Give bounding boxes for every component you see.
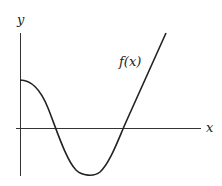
function-plot: y x f(x): [0, 0, 222, 186]
function-curve: [20, 33, 166, 175]
y-axis-label: y: [16, 12, 25, 27]
curve-label: f(x): [118, 54, 141, 69]
x-axis-label: x: [206, 120, 214, 135]
